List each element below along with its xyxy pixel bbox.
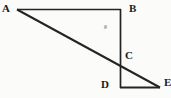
segment-AE — [17, 10, 160, 88]
vertex-label-b: B — [129, 3, 136, 14]
geometry-figure: A B C D E — [0, 0, 171, 98]
vertex-label-d: D — [101, 79, 109, 90]
vertex-label-e: E — [164, 77, 171, 88]
vertex-label-c: C — [125, 50, 133, 61]
vertex-label-a: A — [2, 3, 10, 14]
figure-lines-layer — [0, 0, 171, 98]
